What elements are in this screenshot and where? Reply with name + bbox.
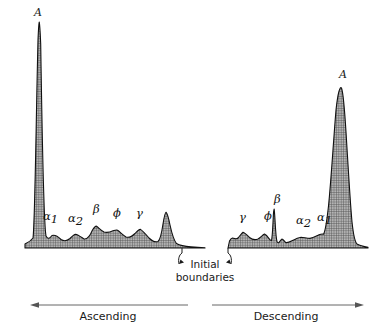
ascending-peak-labels: A α1 α2 β ϕ γ — [33, 6, 143, 228]
descending-direction-group: Descending — [212, 302, 364, 323]
electrophoresis-diagram: A α1 α2 β ϕ γ γ ϕ β α2 α1 A — [0, 0, 377, 333]
descending-gamma-label: γ — [239, 210, 246, 224]
descending-alpha1-label: α1 — [317, 210, 332, 227]
ascending-albumin-label: A — [33, 6, 42, 19]
ascending-beta-label: β — [92, 202, 100, 216]
descending-direction-label: Descending — [254, 310, 319, 323]
descending-alpha2-label: α2 — [296, 213, 311, 230]
ascending-direction-arrowhead — [30, 302, 39, 308]
ascending-gamma-label: γ — [136, 206, 143, 220]
ascending-phi-label: ϕ — [113, 206, 121, 220]
descending-phi-label: ϕ — [264, 209, 272, 223]
electrophoresis-figure: A α1 α2 β ϕ γ γ ϕ β α2 α1 A — [0, 0, 377, 333]
initial-boundaries-left-arrowhead — [179, 260, 184, 265]
ascending-alpha2-label: α2 — [68, 211, 83, 228]
descending-direction-arrowhead — [355, 302, 364, 308]
initial-boundaries-right-arrowhead — [226, 260, 231, 265]
initial-boundaries-line1: Initial — [190, 258, 219, 270]
initial-boundaries-line2: boundaries — [176, 271, 235, 283]
initial-boundaries-annotation: Initial boundaries — [176, 248, 235, 283]
descending-albumin-label: A — [338, 68, 347, 81]
ascending-direction-label: Ascending — [79, 310, 136, 323]
ascending-direction-group: Ascending — [30, 302, 188, 323]
descending-beta-label: β — [273, 192, 281, 206]
